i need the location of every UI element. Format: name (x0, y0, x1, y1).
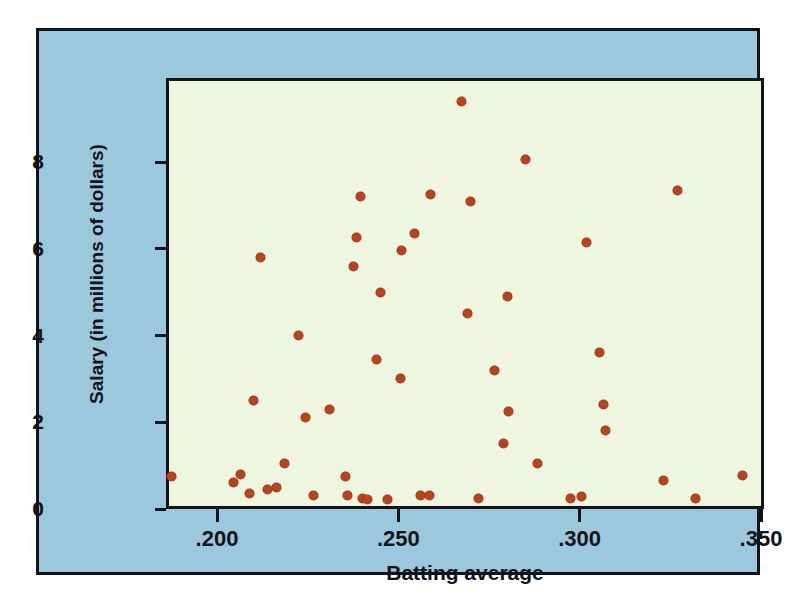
data-point (595, 348, 604, 357)
data-point (229, 478, 238, 487)
y-axis-tick-label: 6 (4, 238, 44, 259)
data-point (499, 439, 508, 448)
data-point (474, 494, 483, 503)
data-point (309, 491, 318, 500)
data-point (425, 491, 434, 500)
data-point (466, 197, 475, 206)
x-axis-title: Batting average (166, 561, 764, 585)
data-point (416, 491, 425, 500)
data-point (566, 494, 575, 503)
data-point (294, 331, 303, 340)
data-point (490, 366, 499, 375)
data-point (463, 309, 472, 318)
data-point (659, 476, 668, 485)
y-axis-tick (155, 508, 166, 511)
data-point (503, 292, 512, 301)
data-point (383, 495, 392, 504)
y-axis-tick-label: 4 (4, 325, 44, 346)
data-point (533, 459, 542, 468)
y-axis-tick-label: 0 (4, 498, 44, 519)
x-axis-tick (578, 509, 581, 522)
y-axis-tick-label: 8 (4, 151, 44, 172)
data-point (352, 233, 361, 242)
data-point (236, 470, 245, 479)
data-point (397, 246, 406, 255)
y-axis-tick (155, 247, 166, 250)
data-point (249, 396, 258, 405)
data-point (457, 97, 466, 106)
scatter-plot-figure: Salary (in millions of dollars) Batting … (0, 0, 793, 609)
x-axis-tick-label: .250 (353, 528, 443, 550)
data-point (356, 192, 365, 201)
x-axis-tick (216, 509, 219, 522)
data-point (280, 459, 289, 468)
data-point (582, 238, 591, 247)
data-point (504, 407, 513, 416)
x-axis-tick-label: .300 (535, 528, 625, 550)
x-axis-tick (397, 509, 400, 522)
y-axis-title: Salary (in millions of dollars) (86, 74, 108, 474)
data-point (245, 489, 254, 498)
data-point (349, 262, 358, 271)
data-point (343, 491, 352, 500)
data-point (396, 374, 405, 383)
data-point (577, 492, 586, 501)
data-point (325, 405, 334, 414)
data-points-layer (169, 81, 761, 506)
plot-area (166, 78, 764, 509)
y-axis-tick (155, 334, 166, 337)
chart-panel: Salary (in millions of dollars) Batting … (36, 28, 760, 575)
data-point (599, 400, 608, 409)
x-axis-tick (760, 509, 763, 522)
data-point (673, 186, 682, 195)
data-point (691, 494, 700, 503)
data-point (521, 155, 530, 164)
data-point (601, 426, 610, 435)
data-point (301, 413, 310, 422)
data-point (167, 472, 176, 481)
data-point (372, 355, 381, 364)
data-point (426, 190, 435, 199)
data-point (256, 253, 265, 262)
y-axis-tick (155, 421, 166, 424)
data-point (341, 472, 350, 481)
data-point (363, 495, 372, 504)
data-point (738, 471, 747, 480)
y-axis-tick-label: 2 (4, 411, 44, 432)
data-point (272, 483, 281, 492)
x-axis-tick-label: .200 (172, 528, 262, 550)
data-point (263, 485, 272, 494)
x-axis-tick-label: .350 (716, 528, 793, 550)
data-point (410, 229, 419, 238)
data-point (376, 288, 385, 297)
y-axis-tick (155, 161, 166, 164)
